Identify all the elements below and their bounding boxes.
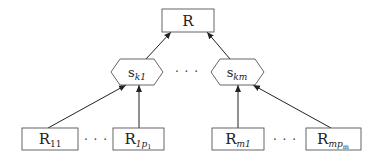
leaf-ellipsis-left: · · · <box>84 133 108 147</box>
node-root-r: R <box>162 9 214 32</box>
node-r11: R11 <box>22 128 78 150</box>
node-s-km: skm <box>211 59 264 85</box>
middle-ellipsis: · · · <box>175 65 199 79</box>
node-s-k1: sk1 <box>111 59 163 85</box>
edge-rmpm-to-s-km <box>253 85 331 128</box>
root-label: R <box>182 12 194 30</box>
leaf-ellipsis-right: · · · <box>273 133 297 147</box>
node-rmpm: Rmpm <box>306 128 361 151</box>
tree-diagram: R sk1 · · · skm R11 · · · R1p1 Rm1 · · ·… <box>0 0 375 155</box>
edge-s-km-to-r <box>207 32 230 59</box>
edges <box>48 32 331 128</box>
edge-s-k1-to-r <box>146 32 171 59</box>
edge-r11-to-s-k1 <box>48 85 126 128</box>
node-rm1: Rm1 <box>212 128 264 150</box>
node-r1p1: R1p1 <box>113 128 164 151</box>
